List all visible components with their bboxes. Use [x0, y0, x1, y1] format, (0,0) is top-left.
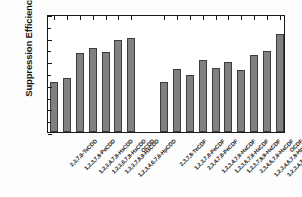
bar [186, 75, 194, 132]
bar [160, 82, 168, 132]
y-minor-tick-mark [48, 122, 51, 123]
x-tick-mark [228, 16, 229, 20]
x-tick-mark [254, 16, 255, 20]
bar [199, 60, 207, 132]
y-tick-mark [48, 16, 52, 17]
bar [50, 82, 58, 132]
bar [114, 40, 122, 132]
x-tick-mark [190, 16, 191, 20]
x-tick-mark [203, 16, 204, 20]
y-tick-mark [48, 87, 52, 88]
bar [212, 68, 220, 132]
bar [76, 53, 84, 132]
bar [250, 55, 258, 132]
bar [237, 70, 245, 132]
x-tick-mark [93, 16, 94, 20]
chart-figure: Suppression Efficiency (%) 020406080100 … [0, 0, 302, 197]
y-axis-title: Suppression Efficiency (%) [23, 0, 34, 102]
bar [263, 51, 271, 132]
x-axis-labels: 2,3,7,8-TeCDD1,2,3,7,8-PeCDD1,2,3,4,7,8-… [47, 133, 285, 197]
x-tick-mark [164, 16, 165, 20]
bar [89, 48, 97, 132]
y-tick-mark [48, 63, 52, 64]
x-tick-mark [118, 16, 119, 20]
y-minor-tick-mark [48, 51, 51, 52]
x-tick-mark [177, 16, 178, 20]
x-tick-mark [131, 16, 132, 20]
x-tick-mark [80, 16, 81, 20]
x-tick-mark [106, 16, 107, 20]
plot-area [47, 15, 285, 133]
y-tick-mark [48, 40, 52, 41]
y-tick-mark [48, 110, 52, 111]
y-minor-tick-mark [48, 28, 51, 29]
bar [63, 78, 71, 132]
bar [173, 69, 181, 132]
bar [276, 34, 284, 132]
bar [102, 52, 110, 132]
x-tick-mark [216, 16, 217, 20]
y-minor-tick-mark [48, 75, 51, 76]
x-tick-mark [267, 16, 268, 20]
y-minor-tick-mark [48, 99, 51, 100]
bar [224, 62, 232, 132]
x-tick-mark [67, 16, 68, 20]
x-tick-mark [54, 16, 55, 20]
bar [127, 38, 135, 132]
x-tick-mark [241, 16, 242, 20]
x-tick-mark [280, 16, 281, 20]
